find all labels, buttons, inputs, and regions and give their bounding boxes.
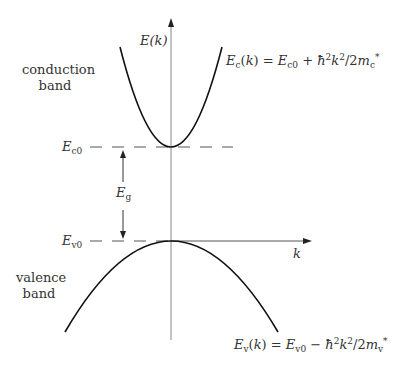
eg-arrow-up-icon [120, 150, 126, 158]
valence-band-label-line2: band [16, 286, 62, 302]
conduction-band-label-line1: conduction [22, 62, 88, 78]
valence-band-label: valence band [16, 270, 62, 302]
valence-band-equation: Ev(k) = Ev0 − ħ2k2/2mv* [234, 336, 388, 354]
energy-axis-arrow-icon [168, 18, 174, 27]
conduction-band-label-line2: band [22, 78, 88, 94]
k-axis-arrow-icon [303, 238, 312, 244]
conduction-band-equation: Ec(k) = Ec0 + ħ2k2/2mc* [226, 52, 379, 70]
conduction-band-label: conduction band [22, 62, 88, 94]
energy-axis-label: E(k) [140, 33, 168, 48]
ec0-label: Ec0 [62, 139, 82, 156]
eg-label: Eg [116, 185, 131, 202]
eg-arrow-down-icon [120, 231, 126, 239]
valence-band-label-line1: valence [16, 270, 62, 286]
k-axis-label: k [293, 246, 301, 261]
ev0-label: Ev0 [62, 233, 82, 250]
